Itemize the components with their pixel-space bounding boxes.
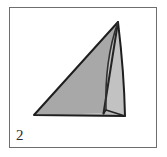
figure-panel: 2: [0, 0, 167, 157]
folded-sheet-diagram: [0, 0, 167, 157]
panel-number-label: 2: [16, 128, 24, 143]
